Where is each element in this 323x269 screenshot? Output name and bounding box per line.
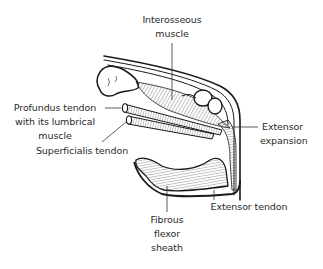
label-line: Fibrous [147,213,187,227]
label-line: Interosseous [138,13,206,27]
label-line: sheath [147,241,187,255]
label-line: Extensor tendon [206,200,292,214]
label-line: muscle [138,27,206,41]
label-profundus-tendon: Profundus tendon with its lumbrical musc… [5,101,105,143]
condyle-2 [208,98,222,114]
label-line: Extensor [260,120,320,134]
label-extensor-tendon: Extensor tendon [206,200,292,214]
metacarpal-head [97,67,138,97]
label-superficialis-tendon: Superficialis tendon [32,144,132,158]
label-line: expansion [260,134,320,148]
label-interosseous-muscle: Interosseous muscle [138,13,206,41]
label-line: Profundus tendon [5,101,105,115]
label-line: muscle [5,129,105,143]
label-line: Superficialis tendon [32,144,132,158]
label-fibrous-flexor-sheath: Fibrous flexor sheath [147,213,187,255]
label-line: with its lumbrical [5,115,105,129]
anatomy-diagram: Interosseous muscle Profundus tendon wit… [0,0,323,269]
label-extensor-expansion: Extensor expansion [260,120,320,148]
label-line: flexor [147,227,187,241]
